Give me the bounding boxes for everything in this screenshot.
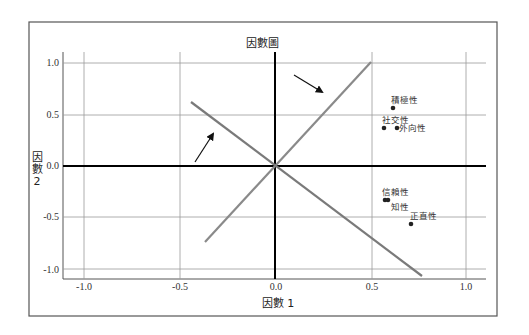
point-社交性 — [382, 126, 387, 131]
factor-plot: 因數圖 -1.0 -0.5 0.0 0.5 1.0 1.0 0.5 0.0 — [0, 0, 529, 335]
svg-text:0.0: 0.0 — [47, 160, 60, 171]
svg-text:積極性: 積極性 — [391, 95, 418, 105]
svg-text:1.0: 1.0 — [460, 281, 473, 292]
svg-text:正直性: 正直性 — [410, 211, 437, 221]
svg-text:0.5: 0.5 — [47, 109, 60, 120]
chart-frame — [29, 22, 497, 316]
svg-text:-0.5: -0.5 — [43, 211, 59, 222]
point-正直性 — [409, 222, 414, 227]
svg-text:0.5: 0.5 — [366, 281, 379, 292]
svg-text:0.0: 0.0 — [270, 281, 283, 292]
svg-text:-0.5: -0.5 — [172, 281, 188, 292]
svg-text:知性: 知性 — [391, 202, 409, 212]
svg-text:2: 2 — [34, 175, 41, 188]
chart-title: 因數圖 — [246, 37, 279, 50]
point-積極性 — [391, 106, 396, 111]
x-axis-label: 因數 1 — [262, 297, 295, 310]
svg-text:信賴性: 信賴性 — [382, 187, 409, 197]
svg-text:-1.0: -1.0 — [76, 281, 92, 292]
svg-text:-1.0: -1.0 — [43, 264, 59, 275]
svg-text:外向性: 外向性 — [399, 123, 426, 133]
svg-text:1.0: 1.0 — [47, 57, 60, 68]
point-知性 — [386, 198, 391, 203]
